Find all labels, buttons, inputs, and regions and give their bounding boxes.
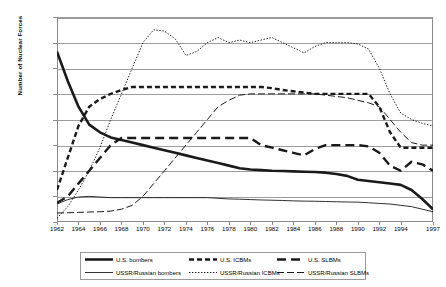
x-tick-mark bbox=[57, 222, 58, 225]
x-tick-mark bbox=[401, 222, 402, 225]
series-line bbox=[57, 52, 433, 210]
legend-item[interactable]: U.S. ICBMs bbox=[189, 253, 251, 266]
nuclear-forces-chart: Number of Nuclear Forces 02004006008001,… bbox=[0, 0, 446, 287]
legend-swatch-icon bbox=[85, 255, 113, 264]
legend-row-us: U.S. bombersU.S. ICBMsU.S. SLBMs bbox=[81, 253, 365, 266]
legend-label: U.S. bombers bbox=[116, 257, 153, 263]
x-tick-mark bbox=[207, 222, 208, 225]
legend-item[interactable]: USSR/Russian bombers bbox=[85, 266, 181, 279]
x-tick-mark bbox=[379, 222, 380, 225]
x-tick-mark bbox=[143, 222, 144, 225]
x-tick-label: 1997 bbox=[413, 226, 446, 232]
legend-row-ussr: USSR/Russian bombersUSSR/Russian ICBMsUS… bbox=[81, 266, 365, 279]
x-tick-mark bbox=[78, 222, 79, 225]
x-tick-mark bbox=[121, 222, 122, 225]
x-tick-mark bbox=[250, 222, 251, 225]
x-tick-mark bbox=[433, 222, 434, 225]
legend-swatch-icon bbox=[277, 268, 305, 277]
x-tick-mark bbox=[186, 222, 187, 225]
legend-label: U.S. SLBMs bbox=[308, 257, 341, 263]
x-tick-mark bbox=[315, 222, 316, 225]
x-tick-mark bbox=[272, 222, 273, 225]
x-tick-mark bbox=[336, 222, 337, 225]
x-tick-mark bbox=[164, 222, 165, 225]
series-line bbox=[57, 196, 433, 211]
legend-label: USSR/Russian bombers bbox=[116, 270, 181, 276]
legend-item[interactable]: U.S. bombers bbox=[85, 253, 153, 266]
series-line bbox=[57, 30, 433, 218]
legend-label: USSR/Russian ICBMs bbox=[220, 270, 280, 276]
chart-legend: U.S. bombersU.S. ICBMsU.S. SLBMs USSR/Ru… bbox=[80, 252, 366, 280]
x-tick-mark bbox=[229, 222, 230, 225]
legend-item[interactable]: USSR/Russian ICBMs bbox=[189, 266, 280, 279]
legend-label: USSR/Russian SLBMs bbox=[308, 270, 369, 276]
series-line bbox=[57, 94, 433, 213]
y-axis-title: Number of Nuclear Forces bbox=[16, 0, 23, 121]
x-tick-mark bbox=[293, 222, 294, 225]
series-line bbox=[57, 138, 433, 203]
x-tick-mark bbox=[358, 222, 359, 225]
legend-swatch-icon bbox=[277, 255, 305, 264]
x-tick-mark bbox=[100, 222, 101, 225]
legend-swatch-icon bbox=[189, 268, 217, 277]
legend-item[interactable]: USSR/Russian SLBMs bbox=[277, 266, 369, 279]
legend-swatch-icon bbox=[85, 268, 113, 277]
legend-swatch-icon bbox=[189, 255, 217, 264]
legend-label: U.S. ICBMs bbox=[220, 257, 251, 263]
legend-item[interactable]: U.S. SLBMs bbox=[277, 253, 341, 266]
series-lines bbox=[57, 17, 433, 222]
